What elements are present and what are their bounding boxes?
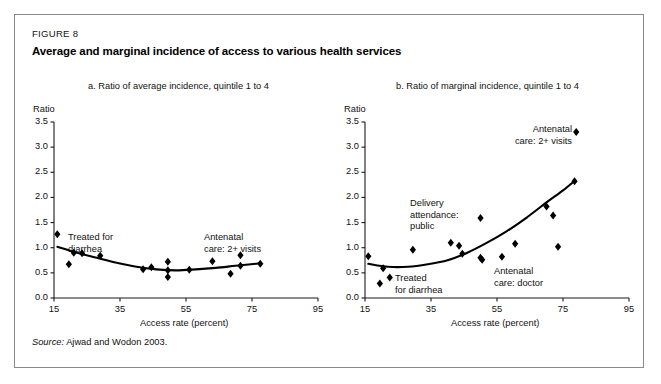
panel-a-title: a. Ratio of average incidence, quintile … (88, 81, 269, 91)
data-point (410, 246, 416, 254)
data-point (209, 257, 215, 265)
data-point (365, 252, 371, 260)
x-tick-label: 95 (617, 304, 641, 314)
data-point (377, 279, 383, 287)
panel-b-plot (358, 118, 636, 324)
y-tick-label: 1.5 (337, 217, 359, 227)
x-tick-label: 35 (108, 304, 132, 314)
data-point (186, 266, 192, 274)
data-point (66, 260, 72, 268)
figure-title: Average and marginal incidence of access… (32, 45, 401, 57)
y-tick-label: 2.0 (26, 191, 48, 201)
data-point (257, 260, 263, 268)
data-point (237, 251, 243, 259)
panel-b-title: b. Ratio of marginal incidence, quintile… (396, 81, 579, 91)
panel-a-plot (47, 118, 325, 324)
data-point (237, 262, 243, 270)
y-tick-label: 2.0 (337, 191, 359, 201)
y-tick-label: 1.0 (337, 242, 359, 252)
source-note: Source: Ajwad and Wodon 2003. (32, 337, 167, 347)
data-point (456, 242, 462, 250)
x-tick-label: 35 (419, 304, 443, 314)
data-point (571, 177, 577, 185)
x-tick-label: 75 (240, 304, 264, 314)
data-point (227, 270, 233, 278)
y-tick-label: 2.5 (337, 166, 359, 176)
y-tick-label: 1.0 (26, 242, 48, 252)
y-tick-label: 3.0 (26, 141, 48, 151)
data-point (71, 249, 77, 257)
data-point (512, 240, 518, 248)
x-tick-label: 55 (174, 304, 198, 314)
y-tick-label: 0.0 (26, 292, 48, 302)
data-point (387, 273, 393, 281)
x-tick-label: 55 (485, 304, 509, 314)
y-tick-label: 1.5 (26, 217, 48, 227)
data-point (165, 258, 171, 266)
data-point (54, 230, 60, 238)
y-tick-label: 3.5 (337, 116, 359, 126)
source-citation: Ajwad and Wodon 2003. (66, 337, 167, 347)
data-point (79, 249, 85, 257)
source-label: Source: (32, 337, 64, 347)
data-point (499, 253, 505, 261)
data-point (165, 273, 171, 281)
x-tick-label: 75 (551, 304, 575, 314)
x-tick-label: 15 (353, 304, 377, 314)
y-tick-label: 0.5 (337, 267, 359, 277)
y-tick-label: 3.0 (337, 141, 359, 151)
y-tick-label: 0.0 (337, 292, 359, 302)
y-tick-label: 3.5 (26, 116, 48, 126)
x-tick-label: 15 (42, 304, 66, 314)
data-point (555, 243, 561, 251)
panel-b-y-axis-label: Ratio (344, 104, 366, 114)
figure-page: FIGURE 8 Average and marginal incidence … (0, 0, 661, 384)
y-tick-label: 0.5 (26, 267, 48, 277)
panel-a-y-axis-label: Ratio (33, 104, 55, 114)
data-point (573, 128, 579, 136)
data-point (550, 212, 556, 220)
data-point (477, 214, 483, 222)
data-point (448, 239, 454, 247)
figure-number-label: FIGURE 8 (32, 28, 78, 39)
y-tick-label: 2.5 (26, 166, 48, 176)
x-tick-label: 95 (306, 304, 330, 314)
